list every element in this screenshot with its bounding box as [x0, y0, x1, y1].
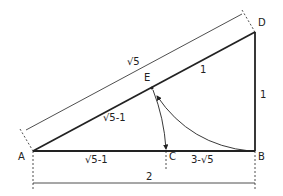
extension-line-D: [242, 10, 255, 32]
label-ED-length: 1: [200, 64, 206, 75]
label-AE-length: √5-1: [103, 112, 126, 123]
label-E: E: [144, 72, 150, 83]
extension-line-A: [20, 129, 33, 151]
label-B: B: [258, 151, 265, 162]
label-AC-length: √5-1: [85, 154, 108, 165]
label-A: A: [18, 151, 25, 162]
arc-B-to-E: [157, 96, 250, 151]
golden-ratio-diagram: A B C D E √5 1 √5-1 1 √5-1 3-√5 2: [0, 0, 283, 196]
label-D: D: [258, 17, 266, 28]
label-BD-length: 1: [260, 89, 266, 100]
label-CB-length: 3-√5: [191, 154, 214, 165]
label-hypotenuse-length: √5: [127, 56, 140, 67]
label-C: C: [169, 151, 176, 162]
point-E-dot: [151, 87, 154, 90]
label-AB-total: 2: [146, 171, 152, 182]
segment-AD: [33, 32, 255, 151]
dimension-line-hypotenuse: [26, 14, 242, 130]
